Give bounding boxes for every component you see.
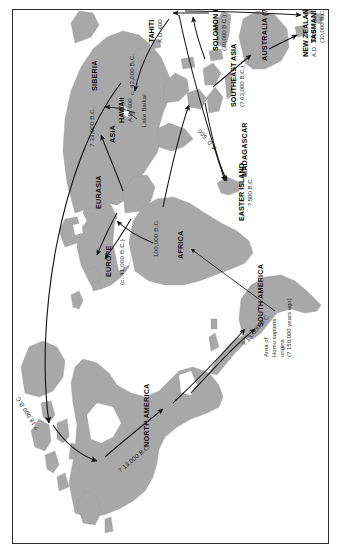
label-hawaii: HAWAII (117, 97, 126, 123)
label-tahiti-group: TAHITI A.D. 600 (147, 19, 163, 43)
annotation-line-3: origins (279, 298, 287, 357)
label-africa-date: 100,000 B.C. (153, 219, 160, 257)
label-tasmania-date: (30,000 B.C.) (318, 10, 325, 43)
label-southeast-asia: SOUTHEAST ASIA (229, 44, 238, 107)
label-europe: EUROPE (105, 245, 113, 277)
label-europe-date: (c. 41,000 B.C.) (119, 239, 126, 285)
label-tahiti-date: A.D. 600 (156, 19, 163, 43)
label-eurasia: EURASIA (95, 175, 103, 209)
label-siberia: SIBERIA (91, 60, 99, 91)
route-na-interior (105, 409, 163, 457)
map-canvas: NORTH AMERICA ? 18,000 B.C. ? 13,000 B.C… (13, 10, 328, 543)
label-africa: AFRICA (177, 231, 185, 259)
label-solomon-is-group: SOLOMON IS. (30,000 B.C.) (211, 10, 227, 51)
annotation-line-2: Homo sapiens (271, 298, 279, 357)
annotation-line-4: (? 150,000 years ago) (286, 298, 294, 357)
label-tahiti: TAHITI (147, 19, 156, 43)
route-beringia-to-alaska (53, 425, 97, 461)
label-asia-date: ? 33,000 B.C. (89, 107, 96, 147)
route-se-asia-to-solomons (193, 17, 205, 59)
label-hawaii-group: HAWAII A.D. 600 (117, 97, 133, 123)
migration-map-figure: NORTH AMERICA ? 18,000 B.C. ? 13,000 B.C… (0, 0, 340, 551)
migration-arrows-layer (13, 10, 328, 543)
label-southeast-asia-date: (? 63,000 B.C.) (238, 44, 245, 107)
label-hawaii-date: A.D. 600 (126, 97, 133, 123)
label-solomon-is: SOLOMON IS. (211, 10, 220, 51)
route-australia-to-tasmania (269, 35, 297, 49)
label-tasmania: TASMANIA (309, 10, 318, 43)
route-na-to-south-america (173, 329, 245, 403)
label-tasmania-group: TASMANIA (30,000 B.C.) (309, 10, 325, 43)
label-australia: AUSTRALIA (? 40,000 B.C.) (261, 10, 269, 61)
annotation-line-1: Area of (263, 298, 271, 357)
route-eurasia-to-asia (101, 135, 123, 191)
route-africa-to-se-asia (163, 105, 189, 207)
rotated-map-container: NORTH AMERICA ? 18,000 B.C. ? 13,000 B.C… (13, 10, 328, 543)
label-lake-baikal: Lake Baikal (141, 94, 147, 127)
label-north-america: NORTH AMERICA (143, 384, 151, 447)
label-asia: ASIA (109, 125, 117, 143)
label-madagascar: MADAGASCAR (241, 122, 249, 177)
label-solomon-is-date: (30,000 B.C.) (220, 10, 227, 51)
map-plate: NORTH AMERICA ? 18,000 B.C. ? 13,000 B.C… (12, 9, 329, 544)
label-southeast-asia-group: SOUTHEAST ASIA (? 63,000 B.C.) (229, 44, 245, 107)
label-siberia-date: c. 43,000 B.C. (129, 54, 136, 95)
annotation-homo-sapiens-origins: Area of Homo sapiens origins (? 150,000 … (263, 298, 294, 357)
